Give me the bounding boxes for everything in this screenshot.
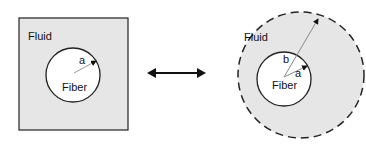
arrow-right-head xyxy=(197,68,206,78)
fiber-label: Fiber xyxy=(62,81,87,93)
radius-a-label: a xyxy=(295,67,302,79)
equivalence-double-arrow xyxy=(147,68,206,78)
fiber-circle xyxy=(46,48,100,102)
fluid-label: Fluid xyxy=(244,31,268,43)
radius-a-label: a xyxy=(79,54,86,66)
arrow-left-head xyxy=(147,68,156,78)
radius-b-label: b xyxy=(283,53,289,65)
fiber-label: Fiber xyxy=(272,79,297,91)
fiber-fluid-diagram: Fluid a Fiber Fluid b a Fiber xyxy=(0,0,366,150)
circular-cell: Fluid b a Fiber xyxy=(238,12,364,138)
square-cell: Fluid a Fiber xyxy=(19,18,128,130)
fluid-label: Fluid xyxy=(28,30,52,42)
